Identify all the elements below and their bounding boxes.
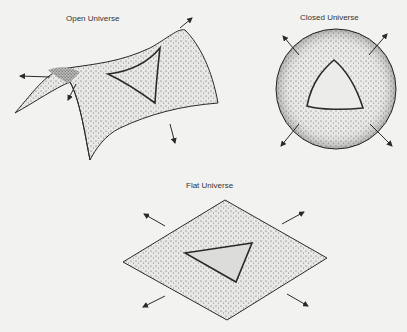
universe-geometry-diagram [0,0,407,332]
closed-universe-panel [276,29,396,149]
arrow-icon [282,212,304,224]
closed-universe-title: Closed Universe [300,13,359,22]
flat-universe-title: Flat Universe [186,181,233,190]
arrow-icon [143,296,165,307]
arrow-icon [144,214,165,226]
arrow-icon [20,76,50,77]
arrow-icon [287,294,308,306]
saddle-surface [15,30,218,160]
open-universe-title: Open Universe [66,14,119,23]
open-universe-panel [15,18,218,160]
flat-universe-panel [123,200,327,320]
arrow-icon [170,124,175,143]
arrow-icon [180,18,192,28]
